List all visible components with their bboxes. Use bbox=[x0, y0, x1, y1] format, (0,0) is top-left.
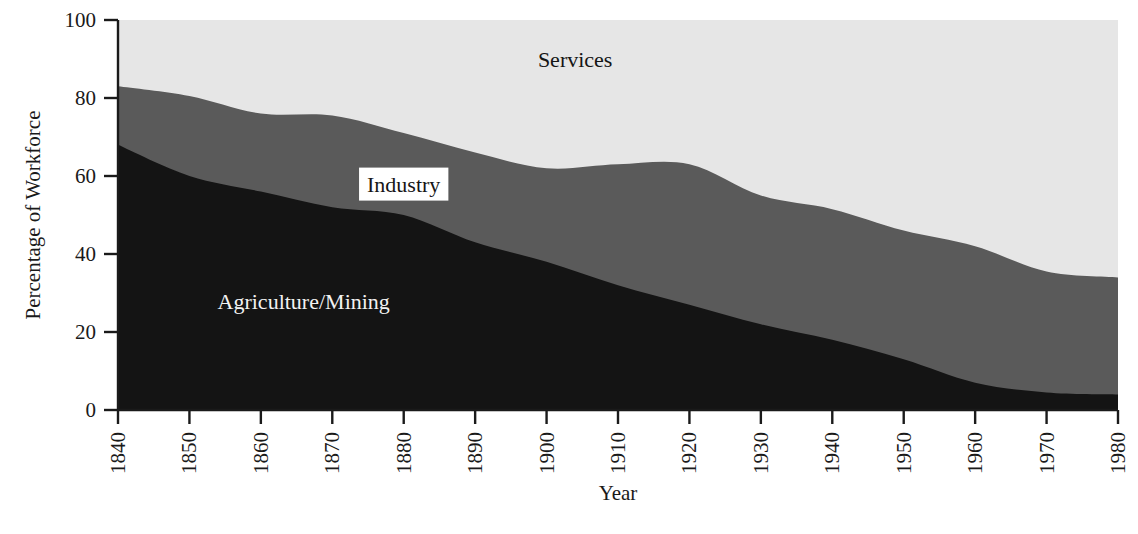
y-axis-title: Percentage of Workforce bbox=[21, 111, 45, 320]
x-axis-tick-label: 1940 bbox=[820, 432, 844, 474]
y-axis-tick-label: 20 bbox=[75, 320, 96, 344]
x-axis-tick-label: 1920 bbox=[677, 432, 701, 474]
x-axis-tick-label: 1840 bbox=[106, 432, 130, 474]
y-axis-tick-label: 60 bbox=[75, 164, 96, 188]
x-axis-tick-label: 1970 bbox=[1035, 432, 1059, 474]
series-label-industry: Industry bbox=[367, 172, 440, 197]
y-axis-tick-label: 80 bbox=[75, 86, 96, 110]
x-axis-tick-label: 1950 bbox=[892, 432, 916, 474]
y-axis-tick-label: 100 bbox=[65, 8, 97, 32]
x-axis-title: Year bbox=[599, 481, 638, 505]
x-axis-tick-label: 1980 bbox=[1106, 432, 1130, 474]
area-bands bbox=[118, 20, 1118, 410]
x-axis-tick-label: 1960 bbox=[963, 432, 987, 474]
x-axis-tick-label: 1880 bbox=[392, 432, 416, 474]
stacked-area-chart: 020406080100 184018501860187018801890190… bbox=[0, 0, 1138, 534]
series-label-agriculture-mining: Agriculture/Mining bbox=[218, 289, 390, 314]
chart-figure: 020406080100 184018501860187018801890190… bbox=[0, 0, 1138, 534]
x-axis-tick-label: 1860 bbox=[249, 432, 273, 474]
x-axis-tick-label: 1890 bbox=[463, 432, 487, 474]
x-axis-tick-label: 1900 bbox=[535, 432, 559, 474]
x-axis-tick-label: 1930 bbox=[749, 432, 773, 474]
y-axis-tick-label: 0 bbox=[86, 398, 97, 422]
series-label-services: Services bbox=[538, 47, 613, 72]
x-axis-tick-label: 1850 bbox=[177, 432, 201, 474]
x-axis-tick-label: 1870 bbox=[320, 432, 344, 474]
x-axis-tick-label: 1910 bbox=[606, 432, 630, 474]
y-axis-tick-label: 40 bbox=[75, 242, 96, 266]
